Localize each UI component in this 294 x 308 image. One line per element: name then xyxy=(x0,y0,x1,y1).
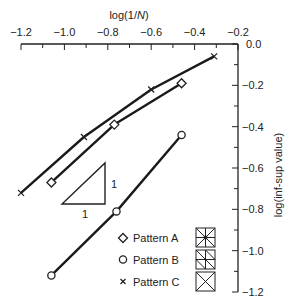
y-tick-label: −0.6 xyxy=(242,162,264,174)
series-pattern-a xyxy=(47,79,186,187)
circle-marker-icon xyxy=(178,131,185,138)
x-tick-label: −1.0 xyxy=(54,26,76,38)
cross-marker-icon xyxy=(18,190,24,196)
y-tick-label: −0.4 xyxy=(242,121,264,133)
mesh-crossed-icon xyxy=(196,272,215,291)
legend: Pattern A Pattern B xyxy=(119,228,216,291)
y-tick-label: −0.2 xyxy=(242,79,264,91)
y-tick-label: −0.8 xyxy=(242,203,264,215)
x-tick-label: −0.8 xyxy=(97,26,119,38)
series-lines xyxy=(18,53,217,279)
slope-rise-label: 1 xyxy=(111,178,117,190)
circle-marker-icon xyxy=(119,256,126,263)
slope-triangle: 1 1 xyxy=(62,163,117,220)
mesh-uniform-diagonal-icon xyxy=(196,250,215,269)
legend-item-pattern-a: Pattern A xyxy=(119,228,216,247)
x-tick-label: −0.2 xyxy=(227,26,249,38)
circle-marker-icon xyxy=(113,208,120,215)
cross-marker-icon xyxy=(121,279,126,284)
y-tick-label: 0.0 xyxy=(246,38,261,50)
x-tick-label: −0.4 xyxy=(184,26,206,38)
cross-marker-icon xyxy=(81,134,87,140)
y-tick-label: −1.2 xyxy=(242,286,264,298)
y-tick-label: −1.0 xyxy=(242,245,264,257)
mesh-union-jack-icon xyxy=(196,228,215,247)
legend-label-b: Pattern B xyxy=(133,254,179,266)
diamond-marker-icon xyxy=(119,234,128,243)
circle-marker-icon xyxy=(48,272,55,279)
legend-item-pattern-b: Pattern B xyxy=(119,250,215,269)
x-axis-title: log(1/N) xyxy=(109,9,148,21)
legend-label-a: Pattern A xyxy=(133,232,179,244)
chart: log(1/N) log(inf-sup value) −1.2−1.0−0.8… xyxy=(0,0,294,308)
legend-label-c: Pattern C xyxy=(133,276,180,288)
x-tick-label: −1.2 xyxy=(10,26,32,38)
y-axis-title: log(inf-sup value) xyxy=(272,133,284,217)
x-tick-label: −0.6 xyxy=(140,26,162,38)
legend-item-pattern-c: Pattern C xyxy=(121,272,216,291)
slope-run-label: 1 xyxy=(82,208,88,220)
